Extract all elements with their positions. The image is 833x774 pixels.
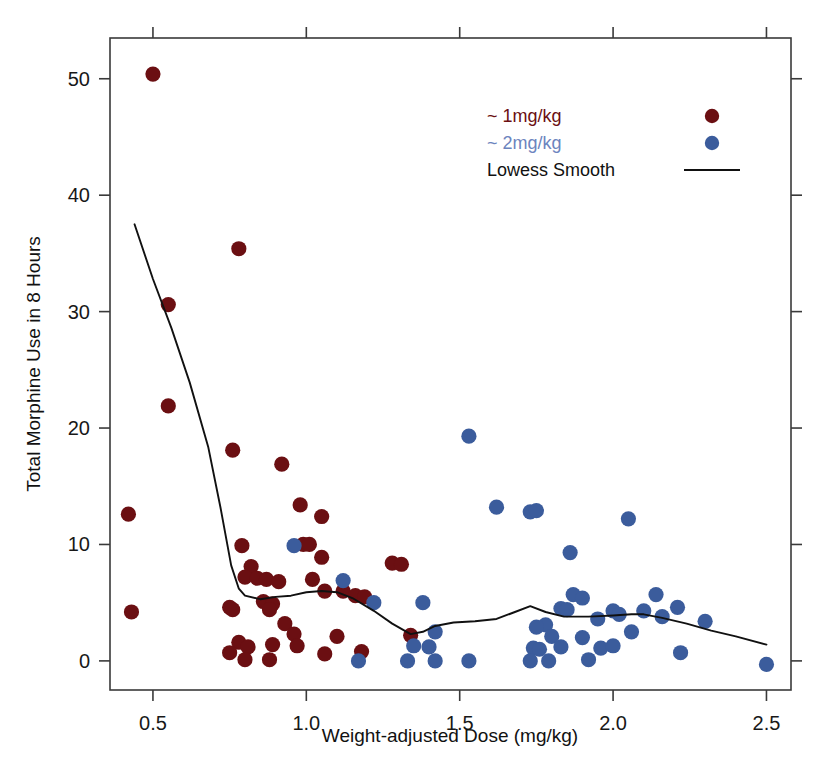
data-point: [237, 652, 252, 667]
data-point: [624, 624, 639, 639]
data-point: [290, 638, 305, 653]
data-point: [621, 511, 636, 526]
scatter-plot-figure: 0.51.01.52.02.5 01020304050 Weight-adjus…: [0, 0, 833, 774]
data-point: [121, 507, 136, 522]
x-axis-ticks: [153, 690, 767, 701]
data-point: [529, 620, 544, 635]
data-point: [222, 645, 237, 660]
data-point: [317, 646, 332, 661]
data-point: [271, 574, 286, 589]
legend: ~ 1mg/kg~ 2mg/kgLowess Smooth: [487, 106, 740, 180]
data-point: [428, 653, 443, 668]
data-point: [759, 657, 774, 672]
y-tick-label-50: 50: [68, 68, 90, 90]
legend-marker-circle-0: [705, 109, 719, 123]
plot-canvas: 0.51.01.52.02.5 01020304050 Weight-adjus…: [0, 0, 833, 774]
data-point: [421, 639, 436, 654]
data-point: [240, 639, 255, 654]
y-axis-title: Total Morphine Use in 8 Hours: [23, 236, 44, 492]
y-tick-label-0: 0: [79, 650, 90, 672]
data-point: [293, 497, 308, 512]
data-point: [575, 630, 590, 645]
data-point: [161, 398, 176, 413]
data-point: [400, 653, 415, 668]
data-point: [406, 638, 421, 653]
data-point: [670, 600, 685, 615]
legend-label-2: Lowess Smooth: [487, 160, 615, 180]
data-point: [415, 595, 430, 610]
series-points-2mgkg: [286, 429, 774, 672]
legend-label-1: ~ 2mg/kg: [487, 133, 562, 153]
y-tick-label-40: 40: [68, 184, 90, 206]
data-point: [262, 602, 277, 617]
y-tick-label-30: 30: [68, 301, 90, 323]
data-point: [234, 538, 249, 553]
data-point: [225, 443, 240, 458]
data-point: [529, 503, 544, 518]
x-axis-title: Weight-adjusted Dose (mg/kg): [322, 725, 578, 746]
series-points-1mgkg: [121, 66, 418, 667]
data-point: [286, 538, 301, 553]
data-point: [314, 550, 329, 565]
data-point: [225, 602, 240, 617]
data-point: [590, 611, 605, 626]
data-point: [145, 66, 160, 81]
data-point: [648, 587, 663, 602]
data-point: [523, 653, 538, 668]
data-point: [314, 509, 329, 524]
data-point: [274, 457, 289, 472]
legend-marker-circle-1: [705, 136, 719, 150]
legend-label-0: ~ 1mg/kg: [487, 106, 562, 126]
data-point: [559, 602, 574, 617]
data-point: [329, 629, 344, 644]
data-point: [265, 637, 280, 652]
data-point: [461, 429, 476, 444]
plot-frame: [110, 38, 791, 690]
data-point: [673, 645, 688, 660]
x-tick-label-1.0: 1.0: [292, 712, 320, 734]
lowess-smooth-curve: [135, 224, 767, 644]
data-point: [394, 557, 409, 572]
y-axis-ticks: [99, 79, 110, 661]
y-tick-label-10: 10: [68, 533, 90, 555]
data-point: [553, 639, 568, 654]
y-tick-label-20: 20: [68, 417, 90, 439]
data-point: [461, 653, 476, 668]
data-point: [489, 500, 504, 515]
data-point: [336, 573, 351, 588]
data-point: [302, 537, 317, 552]
data-point: [605, 638, 620, 653]
data-point: [262, 652, 277, 667]
data-point: [541, 653, 556, 668]
data-point: [575, 590, 590, 605]
x-tick-label-2.5: 2.5: [753, 712, 781, 734]
data-point: [124, 604, 139, 619]
data-point: [581, 652, 596, 667]
x-tick-label-2.0: 2.0: [599, 712, 627, 734]
x-tick-label-0.5: 0.5: [139, 712, 167, 734]
data-point: [563, 545, 578, 560]
data-point: [351, 653, 366, 668]
data-point: [305, 572, 320, 587]
data-point: [231, 241, 246, 256]
y-axis-tick-labels: 01020304050: [68, 68, 90, 672]
